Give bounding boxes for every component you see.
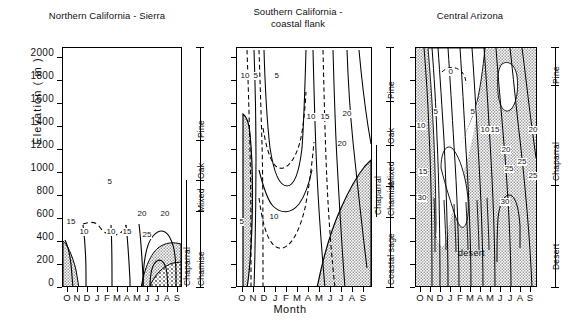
panel-central-arizona: Central Arizona (400, 0, 570, 321)
contour-label-20-p2a: 20 (342, 110, 352, 118)
contour-label-30-p3b: 30 (500, 198, 510, 206)
y-tick-0: 0 (14, 277, 54, 288)
contour-label-5-p2a: 5 (253, 72, 258, 80)
contour-label-10-p2a: 10 (240, 72, 250, 80)
contour-label-10-p3a: 10 (416, 122, 426, 130)
y-tick-1400: 1400 (8, 116, 54, 127)
y-tick-1200: 1200 (8, 139, 54, 150)
contour-label-5a: 5 (107, 178, 112, 186)
contours-southern-california (237, 48, 372, 287)
contour-label-20a: 20 (137, 210, 147, 218)
veg-label-chaparral-p2: Chaparral (373, 176, 383, 215)
panel-southern-california: Southern California - coastal flank (214, 0, 384, 321)
y-tick-200: 200 (14, 254, 54, 265)
panel-title-southern-california-line2: coastal flank (214, 18, 382, 30)
y-tick-800: 800 (14, 185, 54, 196)
veg-label-oak-p1: Oak (196, 163, 206, 179)
contour-label-5-p3a: 5 (433, 108, 438, 116)
contour-label-20-p2b: 20 (337, 140, 347, 148)
y-tick-2000: 2000 (8, 47, 54, 58)
desert-region-label: desert (458, 248, 485, 258)
y-tick-1800: 1800 (8, 70, 54, 81)
panel-title-northern-california: Northern California - Sierra (18, 10, 196, 22)
veg-label-chamise-p1: Chamise (196, 251, 206, 286)
veg-label-pine-p2: Pine (386, 81, 396, 99)
contour-label-15-p2: 15 (320, 113, 330, 121)
contour-label-10-p2c: 10 (269, 213, 279, 221)
y-tick-400: 400 (14, 231, 54, 242)
veg-label-mixed-p1: Mixed (196, 188, 206, 212)
panel-northern-california: Northern California - Sierra 0 200 400 6… (0, 0, 196, 321)
month-label-s-p2: S (356, 292, 370, 303)
veg-label-coastal-sage-p2: Coastal sage (386, 233, 396, 285)
contour-label-25-p3c: 25 (528, 172, 538, 180)
contour-label-0-p3: 0 (448, 68, 453, 76)
contour-label-10-p3b: 10 (480, 126, 490, 134)
veg-label-desert-p3: Desert (551, 244, 561, 270)
y-tick-1000: 1000 (8, 162, 54, 173)
veg-label-chaparral-p1: Chaparral (182, 247, 192, 286)
contour-label-10-p2b: 10 (306, 113, 316, 121)
contour-label-10b: 10 (106, 228, 116, 236)
contour-label-30-p3a: 30 (417, 194, 427, 202)
contours-northern-california (63, 48, 182, 287)
contour-label-25-p3a: 25 (504, 165, 514, 173)
y-tick-1600: 1600 (8, 93, 54, 104)
contour-label-20-p3a: 20 (528, 126, 538, 134)
veg-label-oak-p2: Oak (386, 128, 396, 144)
month-label-s-p3: S (523, 292, 537, 303)
contour-label-15a: 15 (66, 218, 76, 226)
contour-label-5-p2c: 5 (239, 218, 244, 226)
panel-title-southern-california-line1: Southern California - (214, 6, 382, 18)
y-tick-600: 600 (14, 208, 54, 219)
veg-label-chamise-p2: Chamise (386, 181, 396, 216)
contour-label-20b: 20 (160, 210, 170, 218)
contour-label-15-p3b: 15 (418, 168, 428, 176)
contour-label-5-p2b: 5 (274, 72, 279, 80)
figure-root: Elevation ( m ) Month Northern Californi… (0, 0, 570, 321)
veg-label-chaparral-p3: Chaparral (551, 142, 561, 181)
panel-title-central-arizona: Central Arizona (400, 10, 540, 22)
veg-label-pine-p1: Pine (196, 120, 206, 138)
contour-label-10a: 10 (79, 228, 89, 236)
contour-label-5-p3b: 5 (470, 108, 475, 116)
contour-label-25a: 25 (142, 231, 152, 239)
veg-label-pine-p3: Pine (551, 66, 561, 84)
contour-label-15-p3a: 15 (490, 126, 500, 134)
plot-area-northern-california (62, 47, 182, 287)
plot-area-southern-california (236, 47, 372, 287)
contour-label-25-p3b: 25 (517, 158, 527, 166)
month-label-s: S (170, 292, 184, 303)
contour-label-20-p3b: 20 (501, 146, 511, 154)
contour-label-15b: 15 (122, 228, 132, 236)
